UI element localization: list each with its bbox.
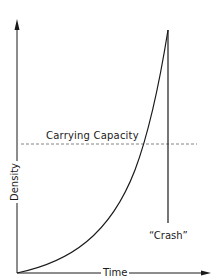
- y-axis-arrow-icon: [15, 19, 20, 30]
- density-time-diagram: Carrying Capacity “Crash” Time Density: [0, 0, 213, 280]
- carrying-capacity-label: Carrying Capacity: [46, 131, 139, 141]
- x-axis-label: Time: [101, 268, 129, 278]
- crash-label: “Crash”: [149, 231, 188, 241]
- x-axis-arrow-icon: [201, 271, 211, 276]
- y-axis-label: Density: [10, 161, 20, 203]
- growth-curve: [17, 30, 168, 273]
